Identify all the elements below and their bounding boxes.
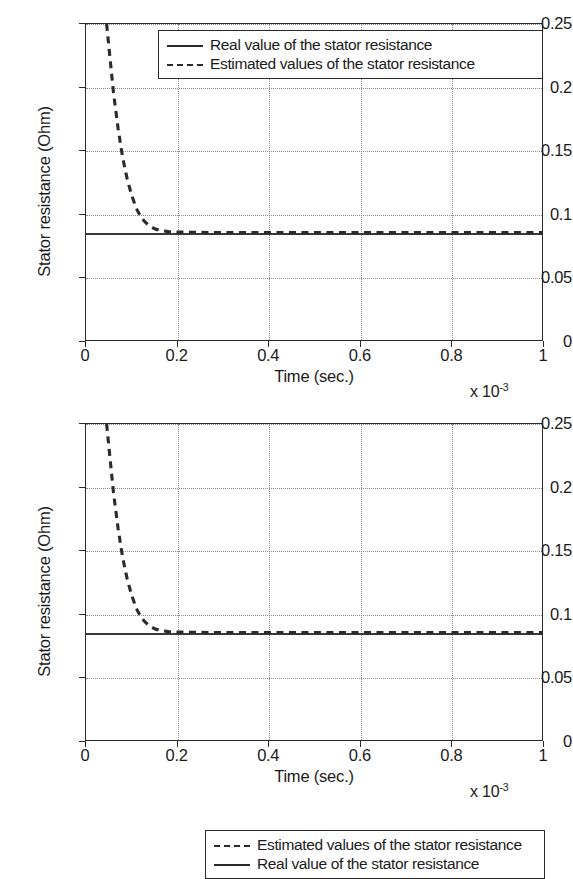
- x-tick-label: 0.2: [147, 347, 207, 364]
- x-tick-label: 0.6: [330, 347, 390, 364]
- x-axis-exponent-power-bottom: -3: [499, 781, 508, 793]
- x-tick-label: 0: [55, 347, 115, 364]
- legend-line-solid-icon: [165, 39, 205, 51]
- y-tick-mark: [79, 550, 85, 551]
- x-tick-label: 1: [513, 347, 573, 364]
- y-tick-mark: [79, 487, 85, 488]
- x-tick-label: 0.8: [421, 347, 481, 364]
- legend-line-dashed-icon: [212, 839, 252, 851]
- legend-label: Real value of the stator resistance: [257, 856, 479, 872]
- legend-label: Estimated values of the stator resistanc…: [257, 837, 522, 853]
- legend-label: Estimated values of the stator resistanc…: [210, 56, 475, 72]
- y-tick-mark: [79, 87, 85, 88]
- legend-bottom[interactable]: Estimated values of the stator resistanc…: [205, 830, 545, 879]
- y-axis-title-bottom: Stator resistance (Ohm): [35, 442, 54, 742]
- y-tick-mark: [79, 614, 85, 615]
- x-axis-exponent-top: x 10-3: [470, 381, 508, 401]
- legend-line-solid-icon: [212, 858, 252, 870]
- legend-item[interactable]: Real value of the stator resistance: [165, 35, 535, 54]
- x-tick-label: 1: [513, 747, 573, 764]
- chart-top: Stator resistance (Ohm) 00.050.10.150.20…: [0, 0, 572, 400]
- y-tick-mark: [79, 277, 85, 278]
- legend-label: Real value of the stator resistance: [210, 37, 432, 53]
- x-axis-exponent-power-top: -3: [499, 381, 508, 393]
- y-tick-mark: [79, 23, 85, 24]
- x-tick-label: 0.6: [330, 747, 390, 764]
- x-tick-label: 0.8: [421, 747, 481, 764]
- x-axis-exponent-mantissa-top: x 10: [470, 383, 499, 400]
- legend-item[interactable]: Estimated values of the stator resistanc…: [212, 835, 537, 854]
- x-tick-label: 0: [55, 747, 115, 764]
- y-tick-mark: [79, 150, 85, 151]
- y-tick-mark: [79, 214, 85, 215]
- y-axis-title-top: Stator resistance (Ohm): [35, 42, 54, 342]
- x-tick-label: 0.4: [238, 347, 298, 364]
- x-axis-exponent-bottom: x 10-3: [470, 781, 508, 801]
- x-axis-exponent-mantissa-bottom: x 10: [470, 783, 499, 800]
- legend-item[interactable]: Estimated values of the stator resistanc…: [165, 54, 535, 73]
- y-tick-mark: [79, 677, 85, 678]
- legend-line-dashed-icon: [165, 58, 205, 70]
- x-tick-label: 0.2: [147, 747, 207, 764]
- legend-item[interactable]: Real value of the stator resistance: [212, 854, 537, 873]
- plot-area-bottom: [85, 423, 543, 741]
- legend-top[interactable]: Real value of the stator resistance Esti…: [158, 30, 543, 79]
- series-line-estimated: [86, 424, 543, 741]
- chart-bottom: Stator resistance (Ohm) 00.050.10.150.20…: [0, 400, 572, 800]
- y-tick-mark: [79, 423, 85, 424]
- x-tick-label: 0.4: [238, 747, 298, 764]
